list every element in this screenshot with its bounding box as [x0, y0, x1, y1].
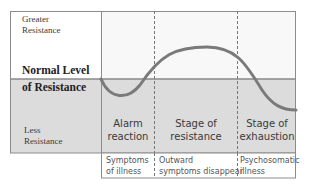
less-label-line2: Resistance	[24, 136, 63, 147]
symptom-line2: of illness	[106, 166, 149, 177]
stage-alarm-reaction: Alarm reaction	[102, 117, 154, 143]
stage-label-line1: Alarm	[102, 117, 154, 130]
symptoms-exhaustion: Psychosomatic illness	[240, 155, 299, 177]
less-label-line1: Less	[24, 125, 63, 136]
stage-label-line2: reaction	[102, 130, 154, 143]
symptom-line2: illness	[240, 166, 299, 177]
stage-label-line2: exhaustion	[238, 130, 296, 143]
greater-label-line2: Resistance	[22, 25, 61, 36]
stage-label-line1: Stage of	[155, 117, 237, 130]
symptoms-alarm: Symptoms of illness	[106, 155, 149, 177]
normal-level-label-line2: of Resistance	[22, 81, 86, 94]
stage-label-line1: Stage of	[238, 117, 296, 130]
stage-label-line2: resistance	[155, 130, 237, 143]
stage-resistance: Stage of resistance	[155, 117, 237, 143]
stage-exhaustion: Stage of exhaustion	[238, 117, 296, 143]
symptom-line1: Outward	[159, 155, 243, 166]
normal-level-label-line1: Normal Level	[22, 64, 89, 77]
symptom-line1: Symptoms	[106, 155, 149, 166]
symptoms-resistance: Outward symptoms disappear	[159, 155, 243, 177]
less-resistance-label: Less Resistance	[24, 125, 63, 147]
symptom-line2: symptoms disappear	[159, 166, 243, 177]
symptom-line1: Psychosomatic	[240, 155, 299, 166]
greater-resistance-label: Greater Resistance	[22, 14, 61, 36]
greater-label-line1: Greater	[22, 14, 61, 25]
